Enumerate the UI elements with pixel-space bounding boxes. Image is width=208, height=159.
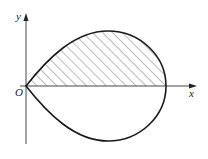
y-axis-label: y — [15, 10, 21, 22]
diagram-canvas: y x O — [0, 0, 208, 159]
shaded-region — [26, 31, 166, 86]
x-axis-label: x — [188, 87, 194, 99]
y-axis-arrow-icon — [24, 13, 29, 21]
origin-label: O — [15, 86, 23, 98]
